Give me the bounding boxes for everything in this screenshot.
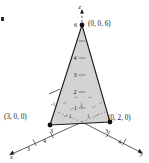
y-tick-label-3: 3 — [105, 128, 108, 134]
left-edge-leader-tick — [49, 89, 60, 94]
x-tick-label-3: 3 — [50, 128, 53, 134]
x-axis-label: x — [10, 154, 13, 160]
z-tick-label-2: 2 — [74, 89, 77, 95]
z-tick-label-6: 6 — [74, 22, 77, 28]
interior-grid-label-neg1: -1 — [51, 102, 56, 107]
y-tick-label-4: 4 — [118, 139, 121, 145]
y-axis-label: y — [140, 151, 143, 157]
z-tick-label-1: 1 — [74, 105, 77, 111]
z-axis-label: z — [79, 4, 81, 10]
vertex-label-x-intercept: (3, 0, 0) — [4, 114, 27, 121]
x-axis-line — [12, 122, 82, 154]
z-tick-label-4: 4 — [74, 55, 77, 61]
interior-grid-label-1c: 1 — [80, 103, 83, 108]
interior-grid-label-1b: 1 — [87, 114, 90, 119]
x-tick-label-3-far: 3 — [27, 146, 30, 152]
x-tick-label-4: 4 — [43, 138, 46, 144]
y-axis-line — [82, 122, 140, 152]
y-axis — [82, 122, 143, 154]
interior-grid-label-1a: 1 — [69, 114, 72, 119]
vertex-label-z-intercept: (0, 0, 6) — [88, 21, 111, 28]
vertex-dot-z-intercept — [80, 23, 85, 28]
z-tick-label-3: 3 — [74, 72, 77, 78]
vertex-label-y-intercept: (0, 2, 0) — [108, 115, 131, 122]
